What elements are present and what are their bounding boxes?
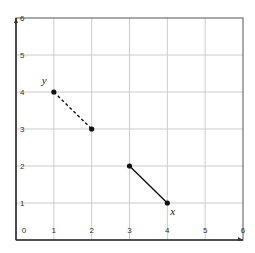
x-tick-label: 3 <box>127 226 132 235</box>
x-tick-label: 6 <box>241 226 246 235</box>
y-tick-label: 3 <box>20 125 25 134</box>
x-tick-label: 4 <box>165 226 170 235</box>
series-line-y <box>54 92 92 129</box>
x-tick-label: 2 <box>89 226 94 235</box>
y-tick-label: 6 <box>20 14 25 23</box>
y-axis-arrow-icon <box>14 18 18 23</box>
data-point-x <box>165 200 170 205</box>
y-tick-label: 2 <box>20 162 25 171</box>
grid-lines <box>16 18 243 240</box>
series-label-y: y <box>41 74 47 86</box>
x-tick-label: 1 <box>52 226 57 235</box>
y-tick-label: 4 <box>20 88 25 97</box>
data-point-y <box>89 126 94 131</box>
y-tick-label: 5 <box>20 51 25 60</box>
x-tick-label: 5 <box>203 226 208 235</box>
line-chart: 0123456123456 y x <box>0 0 255 253</box>
data-point-y <box>51 89 56 94</box>
series-label-x: x <box>169 205 175 217</box>
data-point-x <box>127 163 132 168</box>
series-line-x <box>130 166 168 203</box>
x-tick-label: 0 <box>22 226 27 235</box>
data-series <box>51 89 170 205</box>
y-tick-label: 1 <box>20 199 25 208</box>
